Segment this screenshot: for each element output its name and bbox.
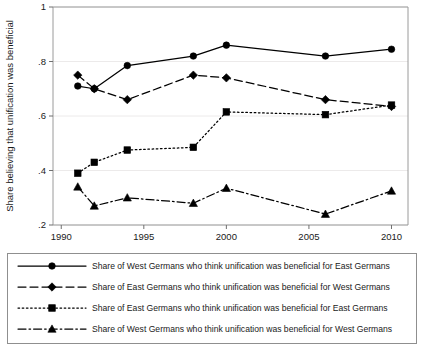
data-point-circle	[124, 62, 131, 69]
data-point-square	[190, 144, 197, 151]
x-tick-label: 2000	[216, 231, 237, 242]
unification-beneficial-line-chart: .2.4.6.81 19901995200020052010 Share bel…	[0, 0, 424, 350]
y-axis-title: Share believing that unification was ben…	[4, 20, 15, 212]
data-point-circle	[74, 83, 81, 90]
y-tick-label: .4	[38, 165, 46, 176]
data-point-square	[223, 109, 230, 116]
legend-marker-sample	[49, 305, 56, 312]
legend-item-label: Share of East Germans who think unificat…	[92, 303, 388, 313]
legend-marker-sample	[49, 263, 56, 270]
legend-item-label: Share of West Germans who think unificat…	[92, 261, 390, 271]
data-point-square	[91, 159, 98, 166]
data-point-circle	[388, 46, 395, 53]
legend-item-label: Share of West Germans who think unificat…	[92, 324, 392, 334]
x-tick-label: 1995	[133, 231, 154, 242]
y-tick-label: .8	[38, 56, 46, 67]
data-point-square	[74, 170, 81, 177]
data-point-circle	[223, 42, 230, 49]
data-point-circle	[322, 53, 329, 60]
data-point-square	[388, 102, 395, 109]
legend-item-label: Share of East Germans who think unificat…	[92, 282, 390, 292]
chart-figure: .2.4.6.81 19901995200020052010 Share bel…	[0, 0, 424, 350]
x-tick-label: 1990	[51, 231, 72, 242]
data-point-circle	[190, 53, 197, 60]
x-tick-label: 2005	[298, 231, 319, 242]
data-point-square	[322, 111, 329, 118]
chart-legend: Share of West Germans who think unificat…	[8, 254, 417, 344]
y-tick-label: 1	[41, 1, 46, 12]
x-tick-label: 2010	[381, 231, 402, 242]
y-tick-label: .2	[38, 219, 46, 230]
data-point-square	[124, 147, 131, 154]
y-tick-label: .6	[38, 110, 46, 121]
